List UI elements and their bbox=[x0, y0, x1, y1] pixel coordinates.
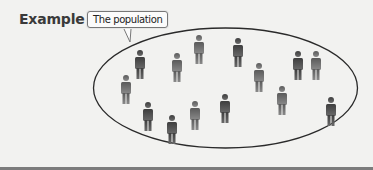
person-icon bbox=[326, 97, 336, 126]
population-ellipse bbox=[94, 28, 358, 148]
person-icon bbox=[220, 94, 230, 123]
callout-pointer bbox=[124, 29, 131, 42]
population-diagram bbox=[0, 0, 373, 170]
person-icon bbox=[194, 35, 204, 64]
person-icon bbox=[135, 50, 145, 79]
person-icon bbox=[121, 75, 131, 104]
person-icon bbox=[190, 101, 200, 130]
person-icon bbox=[172, 53, 182, 82]
person-icon bbox=[293, 51, 303, 80]
population-callout: The population bbox=[87, 11, 168, 28]
bottom-divider bbox=[0, 167, 373, 170]
population-figures bbox=[121, 35, 336, 144]
person-icon bbox=[311, 51, 321, 80]
person-icon bbox=[277, 86, 287, 115]
person-icon bbox=[254, 63, 264, 92]
person-icon bbox=[233, 38, 243, 67]
person-icon bbox=[167, 115, 177, 144]
person-icon bbox=[143, 102, 153, 131]
